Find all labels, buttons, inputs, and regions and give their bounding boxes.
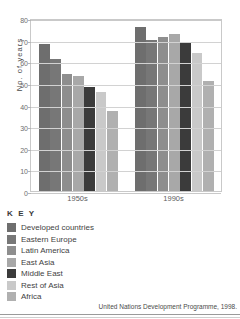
- gridline: [31, 20, 221, 21]
- gridline: [31, 63, 221, 64]
- legend-item: East Asia: [7, 257, 157, 269]
- legend-title: K E Y: [7, 209, 157, 218]
- chart-figure: No. of years 01020304050607080 1950s1990…: [0, 0, 240, 319]
- y-axis-tick: [28, 171, 31, 172]
- y-axis-tick: [28, 107, 31, 108]
- bar: [169, 34, 180, 191]
- legend-swatch: [7, 235, 16, 244]
- legend-swatch: [7, 269, 16, 278]
- legend-item: Latin America: [7, 245, 157, 257]
- legend-item-label: Rest of Asia: [21, 280, 64, 292]
- y-axis-tick-label: 20: [20, 146, 28, 153]
- bar: [84, 87, 95, 191]
- gridline: [31, 150, 221, 151]
- legend-item: Middle East: [7, 268, 157, 280]
- legend-item: Rest of Asia: [7, 280, 157, 292]
- y-axis-tick: [28, 85, 31, 86]
- legend-item-label: Latin America: [21, 245, 69, 257]
- y-axis-tick: [28, 128, 31, 129]
- y-axis-tick-label: 80: [20, 17, 28, 24]
- y-axis-tick-label: 10: [20, 168, 28, 175]
- y-axis-tick-label: 40: [20, 103, 28, 110]
- bar-series-container: [31, 20, 221, 191]
- bar: [39, 44, 50, 191]
- x-axis-labels: 1950s1990s: [30, 194, 222, 206]
- y-axis-tick-label: 30: [20, 125, 28, 132]
- bar: [107, 111, 118, 191]
- legend-item: Eastern Europe: [7, 234, 157, 246]
- x-axis-tick-label: 1990s: [163, 194, 183, 203]
- gridline: [31, 107, 221, 108]
- footer-rule-secondary: [0, 317, 240, 318]
- legend-item-label: Middle East: [21, 268, 63, 280]
- bar: [203, 81, 214, 191]
- legend-item: Developed countries: [7, 222, 157, 234]
- legend-item: Africa: [7, 291, 157, 303]
- legend-swatch: [7, 292, 16, 301]
- legend: K E Y Developed countriesEastern EuropeL…: [7, 209, 157, 303]
- bar: [135, 27, 146, 191]
- bar: [73, 76, 84, 191]
- legend-swatch: [7, 258, 16, 267]
- legend-items: Developed countriesEastern EuropeLatin A…: [7, 222, 157, 303]
- source-citation: United Nations Development Programme, 19…: [99, 303, 237, 310]
- bar: [192, 53, 203, 191]
- bar: [158, 37, 169, 191]
- gridline: [31, 85, 221, 86]
- y-axis-tick: [28, 150, 31, 151]
- footer-rule: [0, 314, 240, 315]
- gridline: [31, 42, 221, 43]
- y-axis-tick-label: 50: [20, 81, 28, 88]
- plot-area: 01020304050607080: [30, 19, 222, 192]
- y-axis-tick: [28, 42, 31, 43]
- y-axis-tick-label: 60: [20, 60, 28, 67]
- bar: [62, 74, 73, 191]
- legend-swatch: [7, 246, 16, 255]
- gridline: [31, 171, 221, 172]
- legend-item-label: Africa: [21, 291, 41, 303]
- legend-item-label: Eastern Europe: [21, 234, 77, 246]
- y-axis-tick: [28, 63, 31, 64]
- x-axis-tick-label: 1950s: [67, 194, 87, 203]
- legend-swatch: [7, 223, 16, 232]
- y-axis-tick: [28, 20, 31, 21]
- bar-chart: No. of years 01020304050607080 1950s1990…: [0, 0, 240, 205]
- y-axis-tick-label: 70: [20, 38, 28, 45]
- legend-item-label: East Asia: [21, 257, 54, 269]
- gridline: [31, 128, 221, 129]
- legend-swatch: [7, 281, 16, 290]
- legend-item-label: Developed countries: [21, 222, 94, 234]
